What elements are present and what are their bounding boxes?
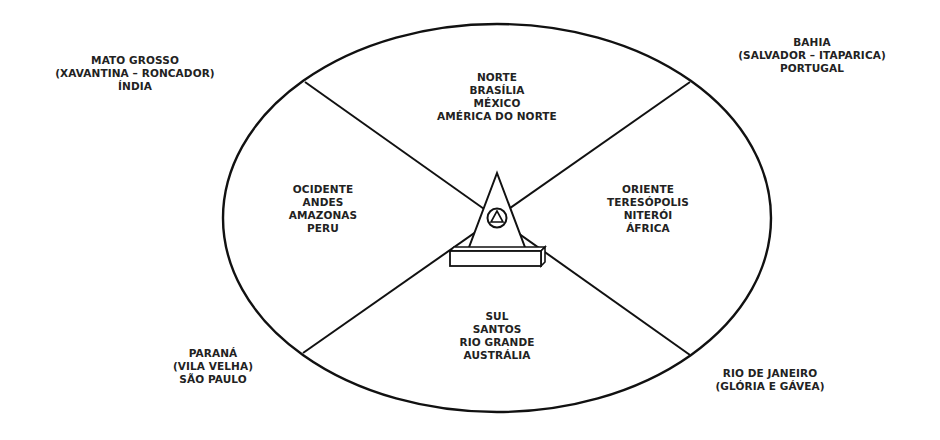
- outer-label-line: (VILA VELHA): [158, 360, 268, 373]
- region-south-line: SANTOS: [437, 323, 557, 336]
- outer-label-line: PORTUGAL: [722, 62, 902, 75]
- pyramid-icon: [468, 173, 526, 250]
- outer-label-line: MATO GROSSO: [40, 54, 230, 67]
- outer-label-line: BAHIA: [722, 36, 902, 49]
- region-east-line: TERESÓPOLIS: [603, 196, 693, 209]
- region-north: NORTE BRASÍLIA MÉXICO AMÉRICA DO NORTE: [437, 71, 557, 123]
- region-west-line: PERU: [278, 222, 368, 235]
- region-south: SUL SANTOS RIO GRANDE AUSTRÁLIA: [437, 310, 557, 362]
- region-east-line: NITERÓI: [603, 209, 693, 222]
- outer-label-top-left: MATO GROSSO (XAVANTINA – RONCADOR) ÍNDIA: [40, 54, 230, 93]
- outer-label-line: (SALVADOR – ITAPARICA): [722, 49, 902, 62]
- outer-label-bottom-right: RIO DE JANEIRO (GLÓRIA E GÁVEA): [700, 367, 840, 393]
- region-east-line: ORIENTE: [603, 183, 693, 196]
- region-north-line: NORTE: [437, 71, 557, 84]
- outer-label-line: (XAVANTINA – RONCADOR): [40, 67, 230, 80]
- outer-label-line: SÃO PAULO: [158, 373, 268, 386]
- region-north-line: BRASÍLIA: [437, 84, 557, 97]
- region-south-line: RIO GRANDE: [437, 336, 557, 349]
- region-north-line: MÉXICO: [437, 97, 557, 110]
- region-east: ORIENTE TERESÓPOLIS NITERÓI ÁFRICA: [603, 183, 693, 235]
- outer-label-line: PARANÁ: [158, 347, 268, 360]
- region-south-line: AUSTRÁLIA: [437, 349, 557, 362]
- region-west: OCIDENTE ANDES AMAZONAS PERU: [278, 183, 368, 235]
- region-west-line: AMAZONAS: [278, 209, 368, 222]
- plinth-icon: [450, 247, 545, 266]
- outer-label-line: (GLÓRIA E GÁVEA): [700, 380, 840, 393]
- region-west-line: OCIDENTE: [278, 183, 368, 196]
- outer-label-top-right: BAHIA (SALVADOR – ITAPARICA) PORTUGAL: [722, 36, 902, 75]
- outer-label-line: ÍNDIA: [40, 80, 230, 93]
- region-south-line: SUL: [437, 310, 557, 323]
- region-north-line: AMÉRICA DO NORTE: [437, 110, 557, 123]
- region-east-line: ÁFRICA: [603, 222, 693, 235]
- region-west-line: ANDES: [278, 196, 368, 209]
- outer-label-line: RIO DE JANEIRO: [700, 367, 840, 380]
- outer-label-bottom-left: PARANÁ (VILA VELHA) SÃO PAULO: [158, 347, 268, 386]
